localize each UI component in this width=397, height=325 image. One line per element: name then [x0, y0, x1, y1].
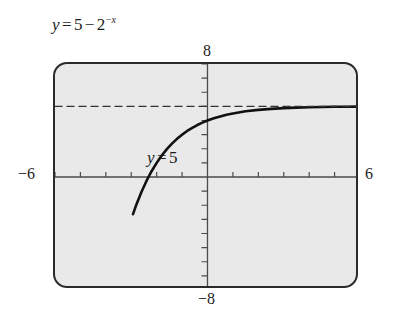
plot-area [53, 62, 358, 288]
caption-minus: − [83, 15, 97, 34]
caption-base: 2 [97, 15, 106, 34]
caption-lhs: y [52, 15, 60, 34]
caption-exponent-var: x [111, 14, 115, 25]
x-min-label: −6 [18, 165, 35, 183]
y-min-label: −8 [198, 290, 215, 308]
caption-equals: = [60, 15, 74, 34]
caption-exponent: −x [106, 14, 116, 25]
x-max-label: 6 [365, 165, 373, 183]
asymptote-lhs: y [147, 148, 155, 167]
axes-group [55, 64, 358, 288]
asymptote-equals: = [155, 148, 169, 167]
y-max-label: 8 [203, 42, 211, 60]
calculator-screen: y=5 [53, 62, 358, 288]
graph-figure: y=5−2−x 8 −8 −6 6 y=5 [0, 0, 397, 325]
series-group [55, 106, 358, 214]
asymptote-value: 5 [169, 148, 178, 167]
caption-constant: 5 [74, 15, 83, 34]
equation-caption: y=5−2−x [52, 14, 116, 35]
asymptote-label: y=5 [147, 148, 178, 168]
